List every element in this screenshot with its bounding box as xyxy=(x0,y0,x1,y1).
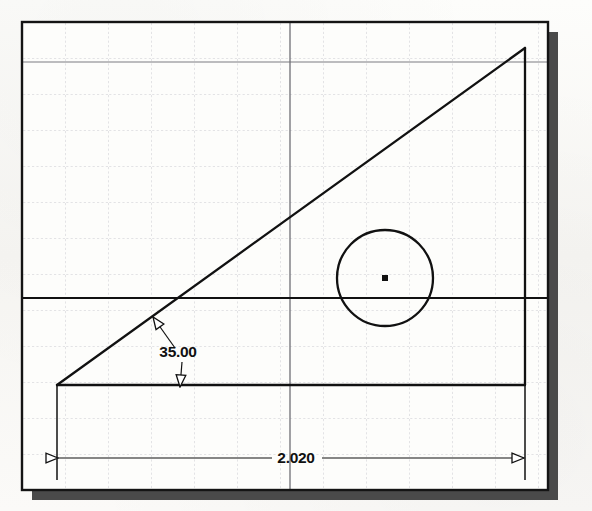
grid-layer xyxy=(23,23,547,489)
drawing-canvas[interactable]: 35.00 2.020 xyxy=(0,0,592,511)
circle-center-mark xyxy=(382,275,388,281)
cad-drawing-screenshot: 35.00 2.020 xyxy=(0,0,592,511)
angular-dimension-label: 35.00 xyxy=(159,343,196,360)
linear-dimension-label: 2.020 xyxy=(277,449,314,466)
